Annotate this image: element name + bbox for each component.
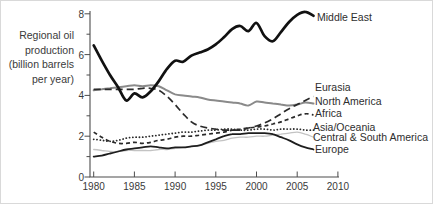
x-tick-label: 1995 [201,181,231,192]
series-label-europe: Europe [315,143,349,156]
series-line-middle-east [94,12,314,101]
y-tick-label: 2 [68,131,84,142]
series-label-africa: Africa [315,107,342,120]
y-axis-title-line: Regional oil [1,28,74,43]
x-tick-label: 2005 [282,181,312,192]
series-label-middle-east: Middle East [317,11,372,24]
y-tick-label: 4 [68,90,84,101]
y-tick-label: 8 [68,9,84,20]
series-line-europe [94,133,314,157]
x-tick-label: 1980 [79,181,109,192]
y-axis-title-line: production [1,43,74,58]
y-tick-label: 6 [68,50,84,61]
y-axis-title-line: (billion barrels [1,57,74,72]
x-tick-label: 2010 [323,181,353,192]
series-line-north-america [94,85,314,105]
axes [90,11,339,177]
series-label-eurasia: Eurasia [315,81,351,94]
x-tick-label: 1985 [119,181,149,192]
y-axis-title: Regional oil production (billion barrels… [1,28,74,86]
y-axis-title-line: per year) [1,72,74,87]
x-tick-label: 1990 [160,181,190,192]
oil-production-chart: Regional oil production (billion barrels… [0,0,433,204]
series-line-eurasia [94,88,314,130]
x-tick-label: 2000 [242,181,272,192]
